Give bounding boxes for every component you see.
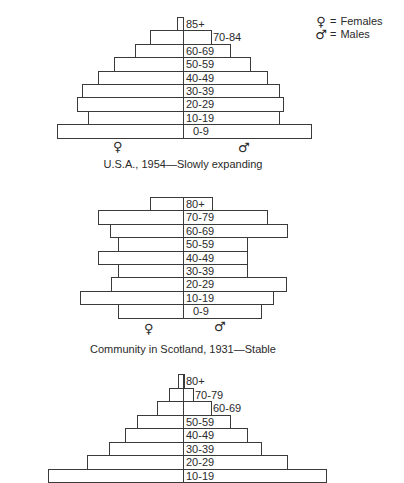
center-axis bbox=[183, 197, 184, 319]
age-group-label: 20-29 bbox=[186, 278, 214, 291]
age-group-label: 70-84 bbox=[213, 31, 241, 44]
male-symbol-icon: ♂ bbox=[314, 28, 328, 41]
age-group-label: 70-79 bbox=[186, 211, 214, 224]
legend-equals: = bbox=[330, 28, 336, 41]
pyramid-bar-0-9 bbox=[118, 304, 262, 319]
legend-male: ♂ = Males bbox=[314, 28, 383, 41]
male-symbol-icon: ♂ bbox=[214, 320, 226, 333]
age-group-label: 40-49 bbox=[186, 429, 214, 442]
male-symbol-icon: ♂ bbox=[238, 141, 250, 154]
female-symbol-icon: ♀ bbox=[144, 322, 154, 335]
center-axis bbox=[183, 374, 184, 483]
pyramid-bar-10-19 bbox=[80, 291, 274, 305]
pyramid-caption: U.S.A., 1954—Slowly expanding bbox=[104, 158, 263, 171]
age-group-label: 20-29 bbox=[186, 98, 214, 111]
pyramid-bar-20-29 bbox=[77, 97, 284, 112]
pyramid-bar-70-79 bbox=[169, 388, 194, 402]
age-group-label: 50-59 bbox=[186, 58, 214, 71]
pyramid-bar-50-59 bbox=[137, 415, 231, 429]
age-group-label: 50-59 bbox=[186, 238, 214, 251]
age-group-label: 20-29 bbox=[186, 456, 214, 469]
legend-male-label: Males bbox=[340, 28, 369, 41]
pyramid-bar-60-69 bbox=[157, 401, 212, 416]
age-group-label: 0-9 bbox=[193, 305, 209, 318]
legend-female-label: Females bbox=[340, 15, 382, 28]
pyramid-bar-40-49 bbox=[98, 251, 248, 265]
legend-equals: = bbox=[330, 15, 336, 28]
legend: ♀ = Females ♂ = Males bbox=[314, 15, 383, 41]
center-axis bbox=[183, 17, 184, 139]
age-group-label: 80+ bbox=[186, 375, 205, 388]
pyramid-bar-70-84 bbox=[150, 30, 212, 45]
age-group-label: 10-19 bbox=[186, 470, 214, 483]
age-group-label: 60-69 bbox=[213, 402, 241, 415]
female-symbol-icon: ♀ bbox=[113, 140, 123, 153]
pyramid-bar-10-19 bbox=[88, 111, 280, 125]
pyramid-bar-0-9 bbox=[57, 124, 312, 139]
pyramid-bar-30-39 bbox=[82, 84, 280, 98]
age-group-label: 0-9 bbox=[193, 125, 209, 138]
pyramid-caption: Community in Scotland, 1931—Stable bbox=[90, 343, 276, 356]
